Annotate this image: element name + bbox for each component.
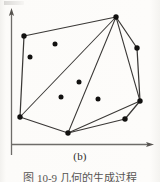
hull-vertex-point bbox=[134, 45, 139, 50]
hull-diagonal bbox=[68, 17, 116, 133]
figure-panel: (b) 图 10-9 几何的生成过程 bbox=[0, 0, 160, 182]
convex-hull-outline bbox=[20, 17, 140, 133]
interior-data-point bbox=[53, 42, 58, 47]
hull-diagonals-group bbox=[20, 17, 140, 133]
hull-vertex-point bbox=[17, 114, 22, 119]
hull-vertex-point bbox=[21, 33, 26, 38]
interior-data-point bbox=[59, 95, 64, 100]
interior-data-point bbox=[28, 55, 33, 60]
hull-vertex-point bbox=[65, 130, 70, 135]
hull-vertex-point bbox=[137, 98, 142, 103]
interior-data-point bbox=[96, 97, 101, 102]
axes-group bbox=[9, 8, 154, 155]
subfigure-caption: (b) bbox=[0, 150, 160, 162]
interior-data-point bbox=[77, 80, 82, 85]
page-caption-clip: 图 10-9 几何的生成过程 bbox=[0, 172, 160, 182]
hull-diagonal bbox=[20, 17, 116, 117]
hull-vertex-point bbox=[122, 116, 127, 121]
data-points-group bbox=[17, 14, 142, 135]
page-caption: 图 10-9 几何的生成过程 bbox=[0, 172, 160, 182]
hull-diagonal bbox=[116, 17, 140, 101]
hull-vertex-point bbox=[113, 14, 118, 19]
